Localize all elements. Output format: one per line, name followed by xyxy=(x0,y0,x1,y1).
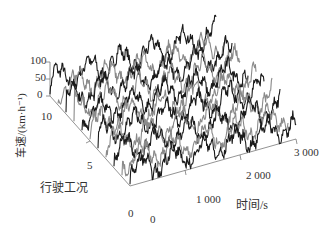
time-tick-label-2000: 2 000 xyxy=(246,170,271,181)
condition-tick-label-0: 0 xyxy=(128,208,134,219)
time-tick-1000 xyxy=(185,170,186,175)
condition-axis-label: 行驶工况 xyxy=(40,182,88,194)
time-tick-2000 xyxy=(240,155,241,160)
condition-tick-label-5: 5 xyxy=(87,160,93,171)
speed-trace-condition-7 xyxy=(74,43,240,121)
speed-axis-label: 车速/(km·h⁻¹) xyxy=(12,93,28,158)
time-tick-label-0: 0 xyxy=(150,214,156,225)
speed-tick-label-100: 100 xyxy=(30,55,47,66)
time-axis-label: 时间/s xyxy=(236,199,268,211)
condition-tick-5 xyxy=(86,141,90,143)
condition-tick-label-10: 10 xyxy=(41,111,52,122)
time-tick-label-1000: 1 000 xyxy=(196,194,221,205)
time-tick-3000 xyxy=(296,139,297,144)
speed-tick-label-50: 50 xyxy=(35,72,46,83)
chart-root: 车速/(km·h⁻¹) 100 50 0 10 5 0 行驶工况 0 1 000… xyxy=(0,0,331,243)
time-tick-label-3000: 3 000 xyxy=(294,147,319,158)
speed-tick-label-0: 0 xyxy=(37,89,43,100)
